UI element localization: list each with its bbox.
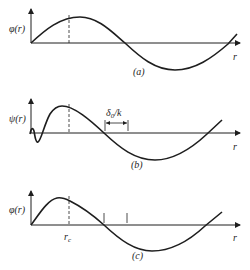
y-axis-label: φ(r) <box>9 23 26 35</box>
rc-marker-label: rc <box>64 231 72 244</box>
x-axis-label: r <box>233 51 237 62</box>
panel-b: δ0/k ψ(r) r (b) <box>9 99 240 171</box>
phase-shift-bracket <box>105 120 128 131</box>
x-axis-label: r <box>233 232 237 243</box>
panel-caption: (b) <box>131 159 143 171</box>
wavefunction-figure: φ(r) r (a) δ0/k ψ(r) r (b) φ(r) rc r (c) <box>0 0 250 270</box>
wavefunction-curve <box>31 198 222 251</box>
y-axis-label: φ(r) <box>9 204 26 216</box>
x-axis-label: r <box>233 141 237 152</box>
panel-c: φ(r) rc r (c) <box>9 191 240 262</box>
panel-caption: (a) <box>133 66 145 78</box>
y-axis-label: ψ(r) <box>9 113 26 125</box>
panel-caption: (c) <box>132 250 144 262</box>
panel-a: φ(r) r (a) <box>9 9 240 78</box>
phase-shift-label: δ0/k <box>106 107 122 120</box>
